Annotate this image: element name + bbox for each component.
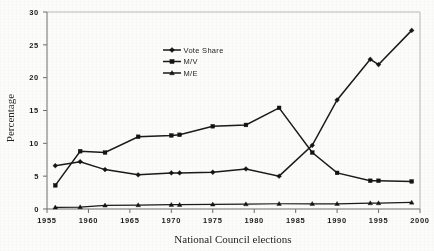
y-tick-label: 0 <box>34 205 39 214</box>
series-line <box>55 202 411 207</box>
marker-square <box>170 59 174 63</box>
marker-square <box>53 183 57 187</box>
series-m-v <box>53 106 413 187</box>
x-tick-label: 1975 <box>203 216 223 225</box>
x-tick-label: 1990 <box>327 216 347 225</box>
y-tick-label: 30 <box>29 8 39 17</box>
legend-item-vote-share: Vote Share <box>163 46 224 55</box>
x-tick-label: 1995 <box>369 216 389 225</box>
marker-diamond <box>53 163 58 168</box>
chart-legend: Vote ShareM/VM/E <box>163 46 224 78</box>
marker-square <box>103 151 107 155</box>
marker-diamond <box>169 47 174 52</box>
marker-diamond <box>103 167 108 172</box>
y-tick-label: 25 <box>29 41 39 50</box>
y-tick-label: 20 <box>29 73 39 82</box>
legend-item-m-v: M/V <box>163 57 198 66</box>
line-chart: 051015202530 195519601965197019751980198… <box>0 0 434 251</box>
marker-square <box>277 106 281 110</box>
marker-square <box>211 124 215 128</box>
series-vote-share <box>53 28 414 179</box>
marker-square <box>377 179 381 183</box>
marker-square <box>310 151 314 155</box>
marker-diamond <box>78 159 83 164</box>
marker-square <box>78 149 82 153</box>
legend-item-m-e: M/E <box>163 69 198 78</box>
chart-figure: 051015202530 195519601965197019751980198… <box>0 0 434 251</box>
x-axis-title: National Council elections <box>174 233 291 245</box>
legend-label: Vote Share <box>184 46 224 55</box>
marker-square <box>178 133 182 137</box>
x-axis-ticks: 1955196019651970197519801985199019952000 <box>37 209 430 225</box>
marker-square <box>335 171 339 175</box>
marker-diamond <box>210 170 215 175</box>
marker-diamond <box>136 172 141 177</box>
y-tick-label: 10 <box>29 139 39 148</box>
marker-diamond <box>244 167 249 172</box>
series-line <box>55 108 411 185</box>
legend-label: M/E <box>184 69 198 78</box>
x-tick-label: 1970 <box>162 216 182 225</box>
x-tick-label: 2000 <box>410 216 430 225</box>
y-tick-label: 15 <box>29 106 39 115</box>
marker-diamond <box>169 170 174 175</box>
series-line <box>55 30 411 176</box>
x-tick-label: 1960 <box>79 216 99 225</box>
legend-label: M/V <box>184 57 198 66</box>
y-axis-ticks: 051015202530 <box>29 8 47 214</box>
marker-diamond <box>177 170 182 175</box>
marker-square <box>368 179 372 183</box>
y-axis-title: Percentage <box>4 94 16 142</box>
x-tick-label: 1985 <box>286 216 306 225</box>
y-tick-label: 5 <box>34 172 39 181</box>
marker-square <box>136 135 140 139</box>
x-tick-label: 1955 <box>37 216 57 225</box>
series-m-e <box>53 200 414 209</box>
marker-square <box>169 134 173 138</box>
marker-square <box>410 180 414 184</box>
x-tick-label: 1965 <box>120 216 140 225</box>
marker-square <box>244 123 248 127</box>
series-layer <box>53 28 414 209</box>
x-tick-label: 1980 <box>244 216 264 225</box>
